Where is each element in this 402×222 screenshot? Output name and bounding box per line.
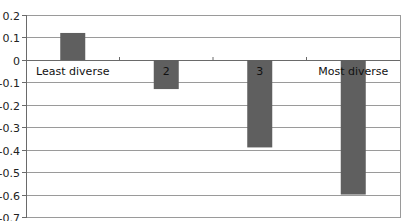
category-label: Most diverse	[318, 65, 388, 78]
y-axis: 0.20.10-0.1-0.2-0.3-0.4-0.5-0.6-0.7	[0, 10, 401, 222]
category-label: Least diverse	[36, 65, 110, 78]
y-tick-label: 0	[13, 55, 20, 68]
category-label: 2	[163, 65, 170, 78]
y-tick-label: -0.3	[0, 122, 20, 135]
bar-chart: 0.20.10-0.1-0.2-0.3-0.4-0.5-0.6-0.7 Leas…	[0, 0, 402, 221]
category-label: 3	[256, 65, 263, 78]
y-tick-label: -0.1	[0, 77, 20, 90]
y-tick-label: 0.1	[3, 32, 21, 45]
bar	[60, 33, 85, 60]
y-tick-label: -0.5	[0, 167, 20, 180]
y-tick-label: -0.6	[0, 190, 20, 203]
y-tick-label: -0.7	[0, 212, 20, 222]
y-tick-label: -0.4	[0, 145, 20, 158]
y-tick-label: 0.2	[3, 10, 21, 23]
bar	[341, 60, 366, 195]
y-tick-label: -0.2	[0, 100, 20, 113]
